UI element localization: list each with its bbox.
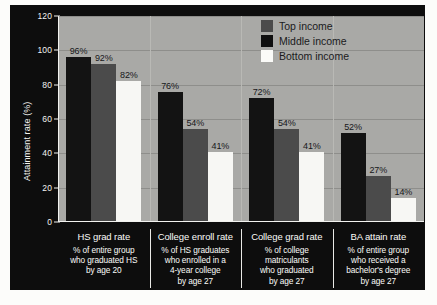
chart-panel: Attainment rate (%) 020406080100120 96%9… bbox=[10, 5, 425, 290]
bar bbox=[91, 64, 116, 222]
bar bbox=[208, 152, 233, 222]
category-cell: College enroll rate% of HS graduateswho … bbox=[150, 228, 242, 290]
y-axis-tick-label: 0 bbox=[22, 217, 52, 227]
bar-value-label: 52% bbox=[344, 122, 362, 132]
category-title: BA attain rate bbox=[335, 231, 423, 242]
bar-value-label: 92% bbox=[95, 53, 113, 63]
bar bbox=[66, 57, 91, 222]
bar bbox=[116, 81, 141, 222]
gridline-vertical bbox=[241, 16, 242, 222]
bar-value-label: 41% bbox=[303, 141, 321, 151]
y-axis-tick-label: 120 bbox=[22, 11, 52, 21]
bar-value-label: 54% bbox=[186, 118, 204, 128]
bar-value-label: 82% bbox=[120, 70, 138, 80]
bar bbox=[274, 129, 299, 222]
legend-item: Middle income bbox=[261, 33, 349, 48]
chart-legend: Top incomeMiddle incomeBottom income bbox=[261, 18, 349, 63]
bar-value-label: 54% bbox=[278, 118, 296, 128]
category-cell: HS grad rate% of entire groupwho graduat… bbox=[58, 228, 150, 290]
category-cell: BA attain rate% of entire groupwho recei… bbox=[333, 228, 425, 290]
y-axis-line bbox=[58, 16, 59, 222]
legend-item: Bottom income bbox=[261, 48, 349, 63]
legend-swatch-icon bbox=[261, 35, 273, 47]
bar-value-label: 96% bbox=[70, 46, 88, 56]
bar bbox=[183, 129, 208, 222]
bar bbox=[341, 133, 366, 222]
x-axis-line bbox=[58, 221, 424, 222]
category-strip: HS grad rate% of entire groupwho graduat… bbox=[58, 228, 424, 290]
bar-value-label: 41% bbox=[212, 141, 230, 151]
gridline-vertical bbox=[150, 16, 151, 222]
legend-label: Top income bbox=[279, 20, 333, 32]
y-axis-tick-label: 40 bbox=[22, 148, 52, 158]
bar bbox=[158, 92, 183, 222]
bar bbox=[299, 152, 324, 222]
legend-swatch-icon bbox=[261, 50, 273, 62]
y-axis-tick-label: 80 bbox=[22, 80, 52, 90]
y-axis-tick-label: 100 bbox=[22, 45, 52, 55]
legend-label: Bottom income bbox=[279, 50, 349, 62]
legend-item: Top income bbox=[261, 18, 349, 33]
y-axis-tick-label: 20 bbox=[22, 183, 52, 193]
category-title: College grad rate bbox=[243, 231, 331, 242]
y-axis-tick-label: 60 bbox=[22, 114, 52, 124]
category-title: HS grad rate bbox=[60, 231, 148, 242]
chart-figure: Attainment rate (%) 020406080100120 96%9… bbox=[0, 0, 437, 305]
category-description: % of collegematriculantswho graduatedby … bbox=[243, 245, 331, 286]
category-cell: College grad rate% of collegematriculant… bbox=[241, 228, 333, 290]
category-description: % of entire groupwho received abachelor'… bbox=[335, 245, 423, 286]
bar bbox=[391, 198, 416, 222]
bar-value-label: 76% bbox=[161, 81, 179, 91]
legend-swatch-icon bbox=[261, 20, 273, 32]
category-description: % of HS graduateswho enrolled in a4-year… bbox=[152, 245, 240, 286]
bar-value-label: 72% bbox=[253, 87, 271, 97]
category-title: College enroll rate bbox=[152, 231, 240, 242]
bar bbox=[366, 176, 391, 222]
bar bbox=[249, 98, 274, 222]
legend-label: Middle income bbox=[279, 35, 347, 47]
bar-value-label: 14% bbox=[395, 187, 413, 197]
plot-area: 96%92%82%76%54%41%72%54%41%52%27%14% bbox=[58, 16, 424, 222]
category-description: % of entire groupwho graduated HSby age … bbox=[60, 245, 148, 276]
bar-value-label: 27% bbox=[369, 165, 387, 175]
